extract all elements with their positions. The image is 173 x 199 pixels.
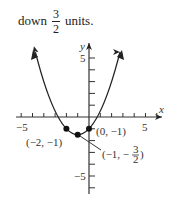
- vertex-label-prefix: (−1, −: [102, 148, 129, 161]
- y-tick-label-5: 5: [80, 52, 86, 64]
- label-point-neg2-neg1: (−2, −1): [26, 136, 63, 149]
- point-neg2-neg1: [63, 126, 69, 132]
- x-tick-label-5: 5: [142, 121, 148, 133]
- vertex-label-suffix: ): [140, 148, 144, 161]
- point-0-neg1: [86, 126, 92, 132]
- x-tick-label-neg5: −5: [16, 121, 28, 133]
- parabola-curve: [35, 52, 120, 135]
- vertex-label-den: 2: [133, 153, 139, 165]
- x-axis-label: x: [158, 103, 164, 115]
- vertex-leader-line: [80, 136, 101, 150]
- point-vertex: [75, 132, 81, 138]
- label-point-0-neg1: (0, −1): [96, 125, 126, 138]
- y-tick-label-neg5: −5: [74, 170, 86, 182]
- parabola-graph: x y −5 5 5 −5 (−2, −1) (0, −1) (−1, − 3 …: [0, 0, 173, 199]
- y-axis-label: y: [79, 40, 85, 52]
- label-vertex: (−1, − 3 2 ): [102, 143, 144, 165]
